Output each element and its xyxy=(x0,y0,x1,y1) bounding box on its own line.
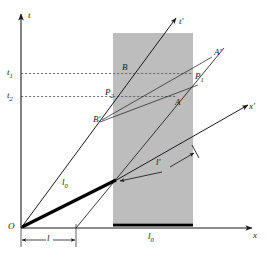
dimension-label-l0-baseline-sub: 0 xyxy=(151,236,154,243)
dimension-label-l0-diagonal-sub: 0 xyxy=(65,182,68,189)
axis-label-t: t xyxy=(28,11,31,20)
event-label-P1: P1 xyxy=(195,72,204,83)
event-label-B-prime: B' xyxy=(93,115,100,124)
event-label-P1-sub: 1 xyxy=(201,76,204,83)
axis-label-x-prime: x' xyxy=(249,102,255,111)
axis-label-t-prime: t' xyxy=(179,17,183,26)
tick-label-t1-sub: 1 xyxy=(10,72,13,79)
diagram-canvas xyxy=(0,0,267,257)
tick-label-t1: t1 xyxy=(7,68,13,79)
event-label-A: A xyxy=(175,98,181,107)
event-label-P2: P2 xyxy=(105,88,114,99)
tick-label-t2: t2 xyxy=(7,91,13,102)
rod-proper-length-segment xyxy=(22,180,116,227)
axis-label-x: x xyxy=(253,231,257,240)
dimension-lprime-tick xyxy=(192,145,199,158)
dimension-label-l-prime: l' xyxy=(156,158,160,167)
event-label-P2-sub: 2 xyxy=(111,92,114,99)
origin-label: O xyxy=(8,222,15,231)
dimension-label-l0-baseline: l0 xyxy=(148,232,154,243)
event-label-A-prime: A' xyxy=(214,48,221,57)
dimension-label-l0-diagonal: l0 xyxy=(62,178,68,189)
event-label-B: B xyxy=(122,63,128,72)
dimension-label-l: l xyxy=(47,234,50,243)
spacetime-diagram: t x t' x' O t1 t2 B B' A A' P1 P2 l l0 l… xyxy=(0,0,267,257)
tick-label-t2-sub: 2 xyxy=(10,95,13,102)
